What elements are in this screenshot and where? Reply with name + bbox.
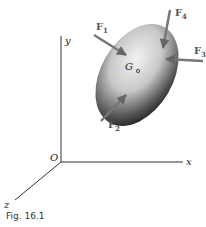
origin-label: O [50, 152, 58, 163]
z-axis-label: z [3, 199, 10, 210]
force-label-f4: F4 [175, 7, 187, 21]
z-axis [15, 162, 61, 200]
force-label-f3: F3 [194, 45, 206, 59]
x-axis-label: x [186, 156, 192, 167]
rigid-body-diagram: y x z O G F1 F4 F3 F2 [0, 0, 206, 227]
y-axis-label: y [64, 35, 71, 46]
figure-caption: Fig. 16.1 [6, 211, 45, 221]
force-label-f1: F1 [96, 21, 108, 35]
center-of-mass-label: G [125, 61, 133, 72]
